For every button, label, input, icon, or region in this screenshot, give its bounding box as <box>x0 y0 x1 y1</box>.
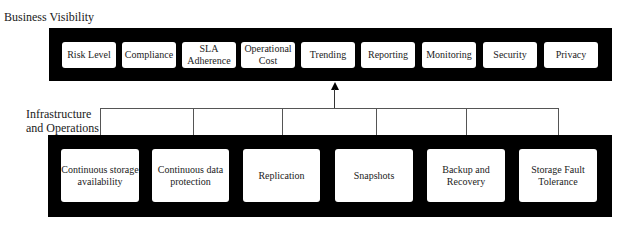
item-monitoring: Monitoring <box>422 42 476 68</box>
connector-horizontal <box>100 108 559 109</box>
item-reporting: Reporting <box>361 42 415 68</box>
connector-drop <box>466 108 467 135</box>
connector-drop <box>282 108 283 135</box>
item-compliance: Compliance <box>122 42 176 68</box>
item-replication: Replication <box>243 149 320 202</box>
connector-drop <box>193 108 194 135</box>
arrow-up-icon <box>331 82 339 90</box>
connector-drop <box>376 108 377 135</box>
item-backup-and-recovery: Backup and Recovery <box>427 149 505 202</box>
infrastructure-operations-layer: Continuous storage availability Continuo… <box>48 135 612 217</box>
item-privacy: Privacy <box>544 42 598 68</box>
item-storage-fault-tolerance: Storage Fault Tolerance <box>519 149 597 202</box>
item-sla-adherence: SLA Adherence <box>182 42 236 68</box>
item-risk-level: Risk Level <box>62 42 116 68</box>
item-continuous-data-protection: Continuous data protection <box>152 149 229 202</box>
business-visibility-label: Business Visibility <box>4 10 94 24</box>
item-trending: Trending <box>301 42 355 68</box>
infrastructure-operations-label: Infrastructure and Operations <box>26 107 106 135</box>
arrow-shaft <box>334 89 335 108</box>
business-visibility-layer: Risk Level Compliance SLA Adherence Oper… <box>49 28 612 81</box>
item-operational-cost: Operational Cost <box>241 42 295 68</box>
item-snapshots: Snapshots <box>335 149 413 202</box>
connector-drop <box>558 108 559 135</box>
item-continuous-storage-availability: Continuous storage availability <box>61 149 139 202</box>
item-security: Security <box>483 42 537 68</box>
